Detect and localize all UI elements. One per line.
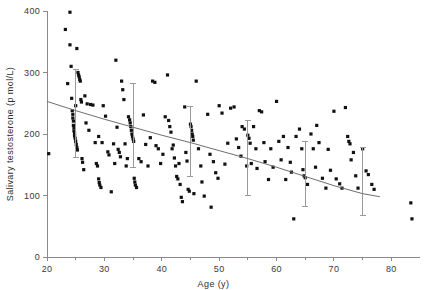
data-point (81, 161, 84, 164)
data-point (364, 169, 367, 172)
data-point (226, 142, 229, 145)
data-point (294, 135, 297, 138)
data-point (149, 136, 152, 139)
data-point (262, 141, 265, 144)
data-point (132, 140, 135, 143)
data-point (117, 148, 120, 151)
data-point (140, 160, 143, 163)
x-axis-label: Age (y) (198, 279, 230, 289)
data-point (260, 110, 263, 113)
data-point (275, 100, 278, 103)
data-point (137, 157, 140, 160)
data-point (229, 107, 232, 110)
data-point (106, 150, 109, 153)
data-point (120, 80, 123, 83)
data-point (68, 11, 71, 14)
data-point (354, 174, 357, 177)
data-point (346, 135, 349, 138)
data-point (367, 173, 370, 176)
data-point (267, 178, 270, 181)
data-point (71, 116, 74, 119)
data-point (192, 192, 195, 195)
data-point (280, 158, 283, 161)
data-point (344, 106, 347, 109)
data-point (102, 104, 105, 107)
data-point (269, 147, 272, 150)
data-point (113, 162, 116, 165)
data-point (74, 137, 77, 140)
data-point (181, 200, 184, 203)
data-point (97, 177, 100, 180)
data-point (97, 135, 100, 138)
y-axis-ticks: 0100200300400 (24, 6, 47, 262)
x-tick-label: 60 (271, 264, 282, 274)
error-bars-group (73, 69, 366, 215)
data-point (255, 167, 258, 170)
data-point (282, 135, 285, 138)
data-point (172, 143, 175, 146)
data-point (71, 113, 74, 116)
data-point (286, 146, 289, 149)
data-point (218, 104, 221, 107)
data-point (119, 155, 122, 158)
data-point (301, 168, 304, 171)
data-point (161, 153, 164, 156)
data-point (314, 166, 317, 169)
x-tick-label: 70 (329, 264, 340, 274)
fitted-regression-curve (47, 101, 380, 196)
data-point (350, 158, 353, 161)
data-point (309, 132, 312, 135)
data-point (317, 141, 320, 144)
y-axis-label: Salivary testosterone (p mol/L) (5, 67, 15, 201)
data-point (210, 206, 213, 209)
data-point (166, 73, 169, 76)
data-point (68, 43, 71, 46)
data-point (114, 59, 117, 62)
data-point (170, 147, 173, 150)
data-point (112, 142, 115, 145)
data-point (289, 161, 292, 164)
data-point (185, 159, 188, 162)
data-point (191, 135, 194, 138)
data-point (121, 88, 124, 91)
data-point (197, 147, 200, 150)
data-point (168, 125, 171, 128)
data-point (153, 81, 156, 84)
data-point (82, 168, 85, 171)
data-point (79, 80, 82, 83)
data-point (338, 182, 341, 185)
data-point (133, 177, 136, 180)
x-tick-label: 50 (214, 264, 225, 274)
data-point (110, 190, 113, 193)
data-point (64, 28, 67, 31)
data-point (263, 160, 266, 163)
data-point (250, 162, 253, 165)
data-point (300, 147, 303, 150)
data-point (154, 144, 157, 147)
data-point (184, 151, 187, 154)
data-point (66, 82, 69, 85)
data-point (180, 196, 183, 199)
data-point (176, 177, 179, 180)
data-point (223, 163, 226, 166)
x-tick-label: 40 (156, 264, 167, 274)
data-point (118, 151, 121, 154)
data-point (356, 187, 359, 190)
data-point (332, 110, 335, 113)
data-point (146, 164, 149, 167)
data-point (83, 94, 86, 97)
x-tick-label: 20 (42, 264, 53, 274)
data-point (348, 142, 351, 145)
data-point (284, 178, 287, 181)
data-point (195, 80, 198, 83)
data-point (335, 177, 338, 180)
data-point (298, 127, 301, 130)
data-point (129, 121, 132, 124)
data-point (243, 127, 246, 130)
data-point (189, 125, 192, 128)
data-point (410, 217, 413, 220)
data-point (72, 126, 75, 129)
data-point (249, 142, 252, 145)
data-point (135, 186, 138, 189)
data-point (125, 164, 128, 167)
